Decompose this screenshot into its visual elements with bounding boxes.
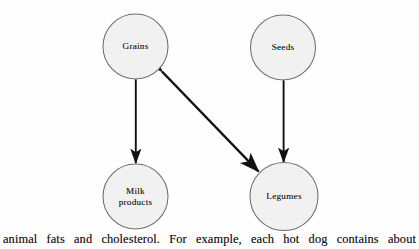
node-milk-products[interactable]	[103, 164, 168, 229]
caption-block: animal fats and cholesterol. For example…	[0, 231, 419, 249]
diagram-figure: Grains Seeds Milk products Legumes	[0, 0, 419, 232]
body-text-line: animal fats and cholesterol. For example…	[3, 231, 416, 247]
edge-grains-legumes	[162, 72, 259, 172]
diagram-svg	[0, 0, 419, 232]
node-seeds[interactable]	[251, 15, 316, 80]
node-grains[interactable]	[103, 14, 168, 79]
node-legumes[interactable]	[250, 163, 318, 231]
page-canvas: Grains Seeds Milk products Legumes anima…	[0, 0, 419, 249]
